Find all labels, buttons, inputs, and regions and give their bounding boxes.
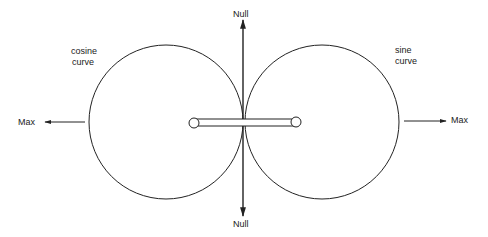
max-left-label: Max bbox=[18, 117, 35, 128]
null-top-label: Null bbox=[233, 9, 249, 20]
sine-curve-label-line1: sine bbox=[395, 45, 412, 56]
cosine-curve-label-line1: cosine bbox=[71, 46, 97, 57]
sine-curve-label-line2: curve bbox=[395, 56, 417, 67]
dipole-antenna-rod bbox=[189, 117, 301, 128]
cosine-curve-label-line2: curve bbox=[72, 57, 94, 68]
max-right-label: Max bbox=[451, 115, 468, 126]
null-bottom-label: Null bbox=[233, 219, 249, 230]
radiation-pattern-diagram bbox=[0, 0, 488, 237]
